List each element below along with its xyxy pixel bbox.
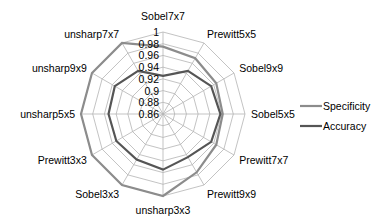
radial-tick-label: 0.92	[139, 73, 160, 85]
radial-tick-label: 0.94	[139, 61, 160, 73]
axis-label: Sobel7x7	[141, 10, 185, 22]
radial-tick-label: 0.96	[139, 49, 160, 61]
radial-tick-labels: 0.860.880.90.920.940.960.981	[139, 26, 160, 120]
radial-tick-label: 0.9	[144, 85, 159, 97]
series-accuracy	[109, 71, 221, 170]
legend-label: Accuracy	[323, 120, 367, 132]
axis-label: unsharp7x7	[64, 28, 119, 40]
axis-label: unsharp3x3	[136, 204, 191, 216]
axis-label: Prewitt7x7	[239, 154, 288, 166]
axis-label: Sobel9x9	[239, 62, 283, 74]
axis-label: unsharp5x5	[20, 108, 75, 120]
axis-label: Prewitt5x5	[207, 28, 256, 40]
legend: SpecificityAccuracy	[300, 100, 371, 132]
axis-label: Sobel3x3	[75, 188, 119, 200]
axis-label: Sobel5x5	[251, 108, 295, 120]
radial-tick-label: 1	[153, 26, 159, 38]
axis-label: unsharp9x9	[32, 62, 87, 74]
axis-label: Prewitt9x9	[207, 188, 256, 200]
radial-tick-label: 0.98	[139, 38, 160, 50]
radar-chart: 0.860.880.90.920.940.960.981 Sobel7x7Pre…	[0, 0, 391, 223]
radial-tick-label: 0.88	[139, 96, 160, 108]
axis-label: Prewitt3x3	[38, 154, 87, 166]
radial-tick-label: 0.86	[139, 108, 160, 120]
legend-label: Specificity	[323, 100, 371, 112]
